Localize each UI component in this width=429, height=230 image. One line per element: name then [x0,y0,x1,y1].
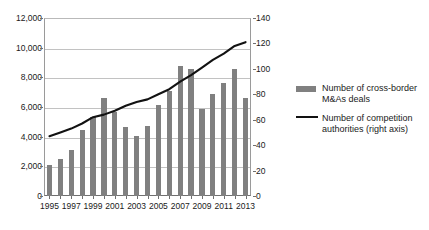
x-axis-tickmark [224,196,225,199]
x-axis-tickmark [82,196,83,199]
y-axis-tick-label: 8,000 [0,73,42,82]
x-axis-tickmark [180,196,181,199]
x-axis-tick-label: 2013 [233,201,259,211]
y-axis-tick-label: 10,000 [0,44,42,53]
x-axis-tickmark [115,196,116,199]
legend: Number of cross-border M&As deals Number… [296,83,429,143]
y-axis-tickmark [40,137,43,138]
y-axis-tick-label: 4,000 [0,133,42,142]
y-axis-tickmark [40,48,43,49]
x-axis-tickmark [60,196,61,199]
y-axis-tickmark [40,107,43,108]
legend-item-bars: Number of cross-border M&As deals [296,83,429,105]
y-axis-tick-label: 12,000 [0,14,42,23]
x-axis-labels: 1995199719992001200320052007200920112013 [0,201,300,215]
y2-axis-tick-label: 120 [256,39,296,48]
y2-axis-tick-label: 100 [256,65,296,74]
bar-swatch-icon [296,83,322,92]
y2-axis-tick-label: 0 [256,192,296,201]
y2-axis-tick-label: 20 [256,167,296,176]
y2-axis-tickmark [253,196,256,197]
y2-axis-tickmark [253,69,256,70]
x-axis-tickmark [235,196,236,199]
y2-axis-tick-label: 40 [256,141,296,150]
y2-axis-tickmark [253,145,256,146]
x-axis-tickmark [49,196,50,199]
y2-axis-tickmark [253,120,256,121]
line-svg [44,18,251,196]
line-swatch-icon [296,113,322,118]
x-axis-tickmark [213,196,214,199]
x-axis-ticks [44,196,251,200]
y2-axis-tick-label: 80 [256,90,296,99]
x-axis-tickmark [104,196,105,199]
x-axis-tickmark [126,196,127,199]
y-axis-tick-label: 2,000 [0,162,42,171]
legend-label-line: Number of competition authorities (right… [322,113,429,135]
y-axis-tickmark [40,166,43,167]
y2-axis-tick-label: 140 [256,14,296,23]
legend-item-line: Number of competition authorities (right… [296,113,429,135]
x-axis-tickmark [169,196,170,199]
y2-axis-tickmark [253,94,256,95]
x-axis-tickmark [246,196,247,199]
y-axis-tickmark [40,18,43,19]
left-axis: 02,0004,0006,0008,00010,00012,000 [0,0,42,230]
y-axis-tickmark [40,77,43,78]
legend-label-bars: Number of cross-border M&As deals [322,83,429,105]
x-axis-tickmark [158,196,159,199]
y-axis-tick-label: 0 [0,192,42,201]
chart-figure: 02,0004,0006,0008,00010,00012,000 020406… [0,0,429,230]
y2-axis-tick-label: 60 [256,116,296,125]
y2-axis-tickmark [253,18,256,19]
line-series-competition-authorities [44,18,251,196]
right-axis: 020406080100120140 [256,0,296,230]
y2-axis-tickmark [253,43,256,44]
y2-axis-tickmark [253,171,256,172]
y-axis-tick-label: 6,000 [0,103,42,112]
x-axis-tickmark [148,196,149,199]
y-axis-tickmark [40,196,43,197]
x-axis-tickmark [71,196,72,199]
x-axis-tickmark [93,196,94,199]
x-axis-tickmark [137,196,138,199]
x-axis-tickmark [202,196,203,199]
x-axis-tickmark [191,196,192,199]
